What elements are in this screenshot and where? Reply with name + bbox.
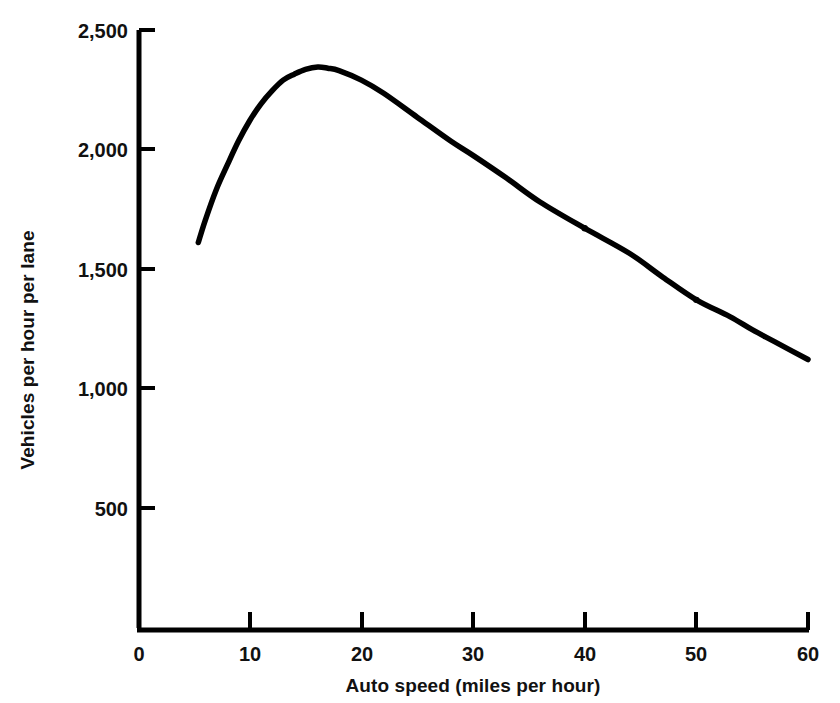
chart-figure: 2,500 2,000 1,500 1,000 500 0 10 20 30 4… bbox=[0, 0, 840, 703]
chart-canvas: 2,500 2,000 1,500 1,000 500 0 10 20 30 4… bbox=[0, 0, 840, 703]
x-tick-label-30: 30 bbox=[462, 643, 484, 665]
x-tick-label-0: 0 bbox=[133, 643, 144, 665]
marker-40mph bbox=[581, 225, 587, 231]
x-tick-label-10: 10 bbox=[239, 643, 261, 665]
marker-50mph bbox=[693, 297, 699, 303]
y-tick-label-1000: 1,000 bbox=[78, 378, 128, 400]
y-tick-label-2500: 2,500 bbox=[78, 20, 128, 42]
chart-background bbox=[0, 0, 840, 703]
y-axis-title: Vehicles per hour per lane bbox=[17, 230, 38, 469]
y-tick-label-2000: 2,000 bbox=[78, 139, 128, 161]
x-tick-label-60: 60 bbox=[797, 643, 819, 665]
x-axis-title: Auto speed (miles per hour) bbox=[345, 675, 600, 696]
y-tick-label-500: 500 bbox=[95, 498, 128, 520]
x-tick-label-40: 40 bbox=[574, 643, 596, 665]
y-tick-label-1500: 1,500 bbox=[78, 259, 128, 281]
x-tick-label-50: 50 bbox=[685, 643, 707, 665]
x-tick-label-20: 20 bbox=[351, 643, 373, 665]
